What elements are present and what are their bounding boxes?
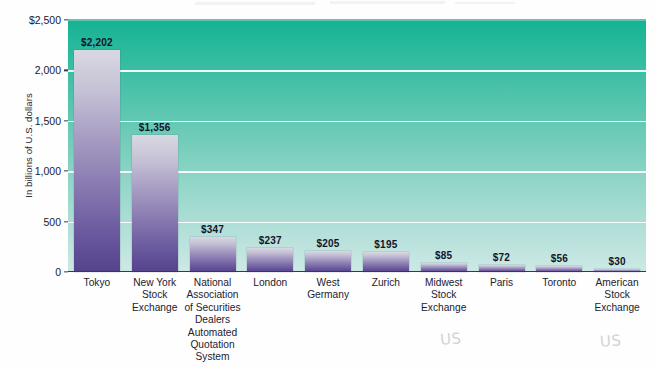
x-category-label: AmericanStockExchange — [586, 277, 648, 314]
bar-value-label: $195 — [346, 239, 426, 250]
bar[interactable] — [363, 252, 409, 272]
bar[interactable] — [190, 237, 236, 272]
x-category-label-line: West — [297, 277, 359, 289]
x-category-label-line: Midwest — [413, 277, 475, 289]
x-category-label-line: Dealers — [182, 314, 244, 326]
x-category-label-line: Automated — [182, 327, 244, 339]
x-category-label-line: Association — [182, 289, 244, 301]
x-category-label-line: System — [182, 351, 244, 363]
bar-value-label: $2,202 — [57, 37, 137, 48]
x-category-label: Zurich — [355, 277, 417, 289]
handwritten-note-us-2: US — [599, 331, 622, 350]
x-category-label-line: Stock — [124, 289, 186, 301]
x-category-label: Toronto — [528, 277, 590, 289]
x-category-label: WestGermany — [297, 277, 359, 302]
x-category-label: Paris — [471, 277, 533, 289]
scan-artifact — [455, 2, 515, 4]
gridline — [68, 70, 646, 72]
x-category-label: London — [239, 277, 301, 289]
scan-artifact — [195, 2, 315, 5]
x-category-label-line: American — [586, 277, 648, 289]
bar[interactable] — [132, 135, 178, 272]
y-tick-label: 1,000 — [5, 165, 61, 177]
x-category-label-line: Paris — [471, 277, 533, 289]
scan-artifact — [330, 1, 445, 4]
bar-value-label: $1,356 — [115, 122, 195, 133]
bar[interactable] — [247, 248, 293, 272]
y-tick-label: 1,500 — [5, 115, 61, 127]
x-category-label-line: Germany — [297, 289, 359, 301]
x-category-label-line: Tokyo — [66, 277, 128, 289]
x-category-label-line: London — [239, 277, 301, 289]
x-category-label-line: Exchange — [586, 302, 648, 314]
bar-value-label: $30 — [577, 256, 657, 267]
plot-area — [68, 20, 646, 272]
bar-chart-figure: In billions of U.S. dollars 05001,0001,5… — [0, 0, 658, 369]
x-category-label-line: Stock — [586, 289, 648, 301]
plot-top-border — [68, 19, 646, 21]
x-category-label: MidwestStockExchange — [413, 277, 475, 314]
bar[interactable] — [305, 251, 351, 272]
x-category-label: New YorkStockExchange — [124, 277, 186, 314]
y-tick-label: $2,500 — [5, 14, 61, 26]
y-tick-label: 0 — [5, 266, 61, 278]
x-category-label-line: Quotation — [182, 339, 244, 351]
x-category-label-line: National — [182, 277, 244, 289]
bar[interactable] — [74, 50, 120, 272]
y-tick-label: 500 — [5, 216, 61, 228]
x-category-label-line: Toronto — [528, 277, 590, 289]
bar-value-label: $347 — [173, 224, 253, 235]
x-category-label: NationalAssociationof SecuritiesDealersA… — [182, 277, 244, 364]
x-category-label-line: Stock — [413, 289, 475, 301]
x-category-label-line: New York — [124, 277, 186, 289]
x-category-label-line: Exchange — [124, 302, 186, 314]
x-category-label: Tokyo — [66, 277, 128, 289]
x-category-label-line: Zurich — [355, 277, 417, 289]
y-tick-label: 2,000 — [5, 64, 61, 76]
x-category-label-line: of Securities — [182, 302, 244, 314]
x-category-label-line: Exchange — [413, 302, 475, 314]
x-axis-line — [68, 271, 646, 272]
handwritten-note-us-1: US — [439, 329, 462, 348]
